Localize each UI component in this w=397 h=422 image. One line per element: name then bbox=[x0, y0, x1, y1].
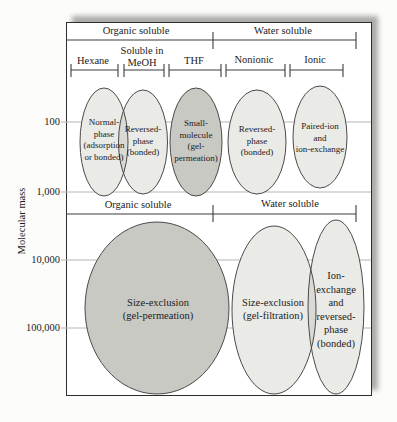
ytick-10000: 10,000 bbox=[6, 254, 60, 266]
bracket-ionic bbox=[290, 64, 343, 77]
figure-canvas: Organic soluble Water soluble Hexane Sol… bbox=[0, 0, 397, 422]
label-paired-ion: Paired-ion and ion-exchange bbox=[296, 121, 344, 156]
label-ion-exchange-rp: Ion- exchange and reversed- phase (bonde… bbox=[316, 269, 356, 350]
label-normal-phase: Normal- phase (adsorption or bonded) bbox=[84, 117, 125, 163]
header-organic-soluble-mid: Organic soluble bbox=[63, 199, 213, 211]
ytick-100: 100 bbox=[6, 116, 60, 128]
bracket-nonionic bbox=[226, 64, 285, 77]
ytick-1000: 1,000 bbox=[6, 186, 60, 198]
bracket-label-ionic: Ionic bbox=[275, 54, 355, 66]
ytick-100000: 100,000 bbox=[6, 322, 60, 334]
header-water-soluble-mid: Water soluble bbox=[215, 198, 365, 210]
header-water-soluble-top: Water soluble bbox=[208, 25, 358, 37]
header-organic-soluble-top: Organic soluble bbox=[61, 25, 211, 37]
label-size-exclusion-gp: Size-exclusion (gel-permeation) bbox=[123, 297, 194, 322]
label-reversed-phase-water: Reversed- phase (bonded) bbox=[239, 124, 275, 159]
label-reversed-phase-organic: Reversed- phase (bonded) bbox=[125, 124, 161, 159]
label-small-molecule: Small- molecule (gel- permeation) bbox=[174, 118, 217, 164]
label-size-exclusion-gf: Size-exclusion (gel-filtration) bbox=[242, 297, 304, 322]
y-axis-title: Molecular mass bbox=[16, 166, 28, 276]
